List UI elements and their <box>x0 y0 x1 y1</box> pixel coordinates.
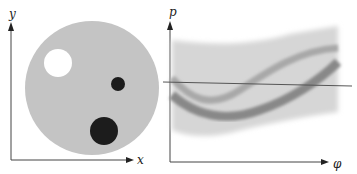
phi-axis-arrow-icon <box>321 159 329 165</box>
phi-axis-label: φ <box>333 157 342 171</box>
diagram: y x p φ <box>0 0 357 174</box>
large-dark-spot <box>90 117 118 145</box>
y-axis-arrow-icon <box>8 22 14 31</box>
sinogram-plane: p φ <box>163 5 352 171</box>
y-axis-label: y <box>8 7 16 21</box>
x-axis-arrow-icon <box>126 157 134 163</box>
object-plane: y x <box>8 7 159 167</box>
x-axis-label: x <box>137 153 144 167</box>
white-hole <box>44 49 72 77</box>
p-axis-arrow-icon <box>167 21 173 30</box>
small-dark-spot <box>111 77 125 91</box>
p-axis-label: p <box>169 5 177 19</box>
